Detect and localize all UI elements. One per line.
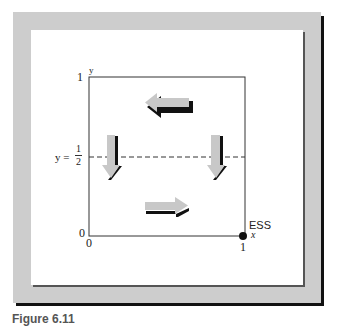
- y-origin-tick: 0: [79, 227, 85, 239]
- arrow-right-icon: [145, 197, 189, 217]
- y-top-tick: 1: [77, 71, 83, 83]
- fraction-denominator: 2: [75, 156, 82, 167]
- ess-point: [239, 232, 247, 240]
- arrow-left-icon: [145, 93, 193, 118]
- figure-caption: Figure 6.11: [12, 312, 75, 326]
- y-axis-label: y: [89, 66, 94, 75]
- ess-label: ESS: [249, 220, 271, 231]
- threshold-label: y =: [55, 152, 69, 163]
- threshold-fraction: 1 2: [75, 144, 82, 167]
- fraction-numerator: 1: [75, 144, 82, 156]
- x-right-tick: 1: [240, 241, 246, 253]
- x-origin-tick: 0: [86, 237, 92, 249]
- x-axis-label: x: [251, 230, 255, 240]
